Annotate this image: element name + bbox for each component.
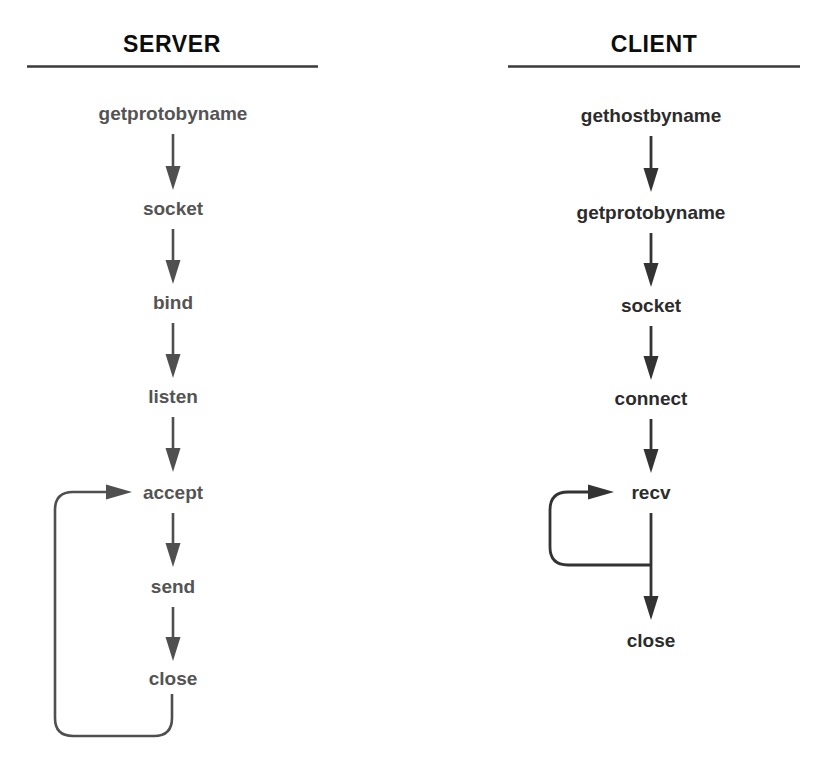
client-arrow-connect-to-recv bbox=[644, 419, 659, 473]
server-step-close: close bbox=[149, 668, 198, 689]
client-arrow-recv-to-close bbox=[644, 513, 659, 620]
server-arrow-getprotobyname-to-socket bbox=[166, 134, 181, 190]
server-step-accept: accept bbox=[143, 482, 204, 503]
client-step-socket: socket bbox=[621, 295, 682, 316]
server-arrow-send-to-close bbox=[166, 607, 181, 661]
server-step-send: send bbox=[151, 576, 195, 597]
client-column-heading: CLIENT bbox=[611, 31, 698, 57]
server-step-listen: listen bbox=[148, 386, 198, 407]
client-step-recv: recv bbox=[631, 482, 671, 503]
server-step-bind: bind bbox=[153, 292, 193, 313]
client-arrow-gethostbyname-to-getprotobyname bbox=[644, 136, 659, 192]
client-column: CLIENT gethostbyname getprotobyname sock… bbox=[508, 31, 800, 651]
client-step-gethostbyname: gethostbyname bbox=[581, 105, 721, 126]
server-step-socket: socket bbox=[143, 198, 204, 219]
server-column-heading: SERVER bbox=[123, 31, 221, 57]
server-arrow-listen-to-accept bbox=[166, 417, 181, 472]
server-arrow-socket-to-bind bbox=[166, 229, 181, 284]
client-step-connect: connect bbox=[615, 388, 689, 409]
client-arrow-getprotobyname-to-socket bbox=[644, 233, 659, 287]
client-arrow-socket-to-connect bbox=[644, 326, 659, 380]
server-step-getprotobyname: getprotobyname bbox=[99, 103, 248, 124]
server-column: SERVER getprotobyname socket bind listen… bbox=[27, 31, 318, 736]
server-loop-close-to-accept bbox=[55, 485, 172, 737]
client-step-close: close bbox=[627, 630, 676, 651]
server-arrow-accept-to-send bbox=[166, 513, 181, 567]
client-step-getprotobyname: getprotobyname bbox=[577, 202, 726, 223]
socket-api-flow-diagram: SERVER getprotobyname socket bind listen… bbox=[0, 0, 821, 773]
flow-svg: SERVER getprotobyname socket bind listen… bbox=[0, 0, 821, 773]
server-arrow-bind-to-listen bbox=[166, 323, 181, 378]
